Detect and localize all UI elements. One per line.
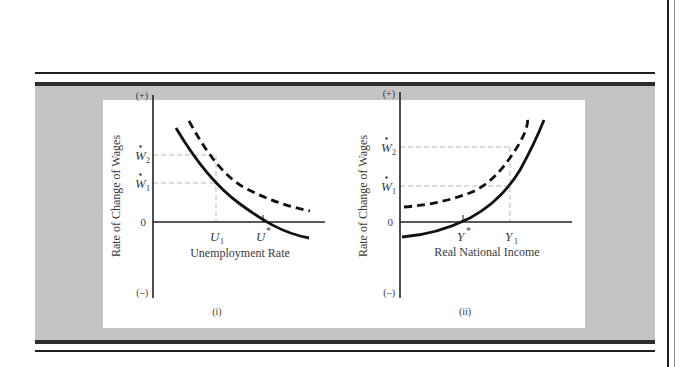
svg-text:Y: Y: [505, 229, 514, 244]
tick-label-ystar: Y *: [457, 225, 471, 244]
dashed-curve: [189, 121, 310, 211]
tick-label-w1: W 1: [135, 173, 150, 193]
tick-label-w2: W 2: [381, 137, 396, 157]
chart-panel-i: (+) (–) 0 W 2 W 1 U 1 U * Unemployment R…: [109, 90, 325, 318]
y-axis-label: Rate of Change of Wages: [109, 135, 123, 257]
svg-text:*: *: [266, 225, 271, 236]
y-zero-label: 0: [388, 216, 394, 228]
svg-text:2: 2: [146, 156, 150, 165]
panel-caption: (ii): [459, 306, 471, 318]
svg-text:Y: Y: [457, 229, 466, 244]
tick-label-w2: W 2: [135, 145, 150, 165]
svg-text:2: 2: [392, 148, 396, 157]
tick-label-w1: W 1: [381, 176, 396, 196]
y-axis-label: Rate of Change of Wages: [356, 135, 370, 257]
panel-caption: (i): [212, 306, 221, 318]
svg-text:1: 1: [392, 187, 396, 196]
y-minus-label: (–): [136, 287, 148, 299]
svg-text:1: 1: [146, 184, 150, 193]
y-plus-label: (+): [383, 88, 395, 100]
tick-label-u1: U 1: [210, 229, 224, 246]
y-zero-label: 0: [141, 216, 147, 228]
chart-panel-ii: (+) (–) 0 W 2 W 1 Y * Y 1 Real National …: [356, 88, 572, 318]
tick-label-ustar: U *: [256, 225, 271, 244]
svg-text:1: 1: [220, 237, 224, 246]
tick-label-y1: Y 1: [505, 229, 518, 246]
x-axis-label: Real National Income: [434, 245, 539, 259]
y-plus-label: (+): [136, 90, 148, 102]
dashed-curve: [404, 116, 528, 207]
x-axis-label: Unemployment Rate: [190, 246, 290, 260]
svg-text:*: *: [466, 225, 471, 236]
y-minus-label: (–): [383, 287, 395, 299]
phillips-curve-figure: (+) (–) 0 W 2 W 1 U 1 U * Unemployment R…: [0, 0, 690, 367]
